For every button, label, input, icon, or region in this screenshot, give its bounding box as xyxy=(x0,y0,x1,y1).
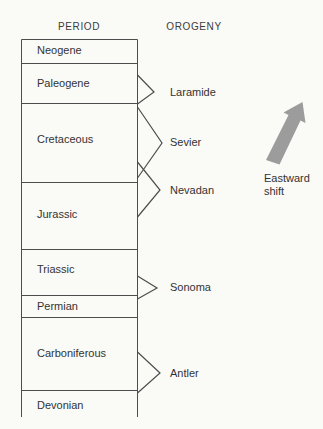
orogeny-label-laramide: Laramide xyxy=(170,87,216,98)
antler-span-bracket xyxy=(138,352,161,393)
period-column-header: PERIOD xyxy=(58,21,100,32)
eastward-shift-arrow-icon xyxy=(266,102,306,165)
period-label-neogene: Neogene xyxy=(37,45,82,56)
period-label-triassic: Triassic xyxy=(37,264,74,275)
nevadan-span-bracket xyxy=(138,162,161,217)
eastward-shift-label: Eastward shift xyxy=(264,172,323,198)
period-label-devonian: Devonian xyxy=(37,400,83,411)
orogeny-label-sevier: Sevier xyxy=(170,137,201,148)
period-label-carboniferous: Carboniferous xyxy=(37,348,106,359)
period-label-paleogene: Paleogene xyxy=(37,78,90,89)
orogeny-label-sonoma: Sonoma xyxy=(170,282,211,293)
orogeny-column-header: OROGENY xyxy=(166,21,221,32)
orogeny-label-nevadan: Nevadan xyxy=(170,185,214,196)
period-label-permian: Permian xyxy=(37,301,78,312)
periods-orogenies-diagram: PERIOD OROGENY Neogene Paleogene Cretace… xyxy=(0,0,323,429)
orogeny-label-antler: Antler xyxy=(170,368,199,379)
laramide-span-bracket xyxy=(138,75,155,104)
period-label-cretaceous: Cretaceous xyxy=(37,134,93,145)
sonoma-span-bracket xyxy=(138,276,158,299)
period-label-jurassic: Jurassic xyxy=(37,209,77,220)
